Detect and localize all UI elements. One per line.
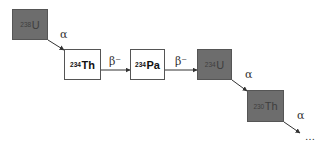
arrow-alpha-th230-next: [284, 122, 300, 133]
decay-chain-diagram: 238U 234Th 234Pa 234U 230Th α β⁻ β⁻ α α …: [0, 0, 324, 150]
node-u234: 234U: [197, 49, 232, 80]
arrow-alpha-u238-th234: [48, 40, 64, 50]
mass-number: 234: [205, 61, 216, 68]
mass-number: 234: [70, 61, 81, 68]
element-symbol: Pa: [146, 59, 159, 71]
mass-number: 230: [253, 103, 264, 110]
node-th234: 234Th: [64, 49, 101, 80]
label-beta-1: β⁻: [109, 55, 121, 68]
mass-number: 238: [20, 21, 31, 28]
element-symbol: Th: [81, 59, 94, 71]
arrow-alpha-u234-th230: [232, 80, 247, 91]
node-u238: 238U: [12, 9, 48, 40]
node-th230: 230Th: [247, 90, 284, 122]
label-alpha-1: α: [60, 28, 67, 41]
label-beta-2: β⁻: [175, 55, 187, 68]
mass-number: 234: [135, 61, 146, 68]
element-symbol: U: [216, 59, 224, 71]
element-symbol: U: [32, 19, 40, 31]
label-alpha-2: α: [245, 68, 252, 81]
label-alpha-3: α: [297, 109, 304, 122]
node-pa234: 234Pa: [130, 49, 165, 80]
element-symbol: Th: [265, 100, 278, 112]
continuation-ellipsis: …: [305, 131, 315, 142]
